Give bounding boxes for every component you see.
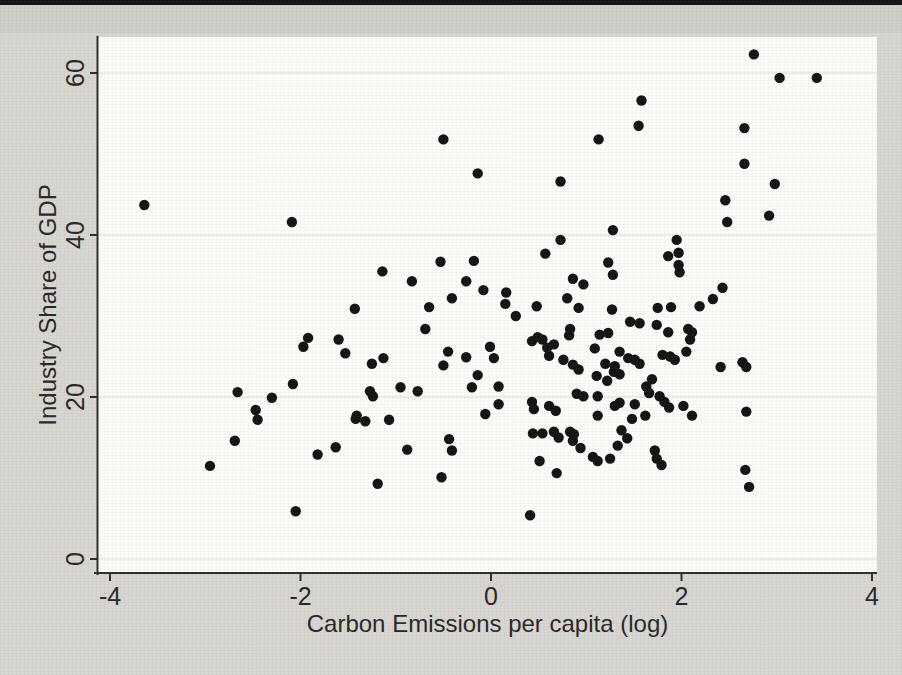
data-point bbox=[644, 388, 654, 398]
data-point bbox=[230, 436, 240, 446]
data-point bbox=[377, 266, 387, 276]
data-point bbox=[367, 359, 377, 369]
data-point bbox=[368, 391, 378, 401]
data-point bbox=[312, 449, 322, 459]
data-point bbox=[607, 304, 617, 314]
data-point bbox=[774, 73, 784, 83]
scatter-figure: Industry Share of GDP Carbon Emissions p… bbox=[0, 0, 902, 675]
data-point bbox=[622, 433, 632, 443]
data-point bbox=[717, 283, 727, 293]
data-point bbox=[636, 95, 646, 105]
data-point bbox=[592, 371, 602, 381]
data-point bbox=[360, 416, 370, 426]
x-tick-label-0: 0 bbox=[484, 584, 498, 609]
data-point bbox=[139, 200, 149, 210]
data-point bbox=[656, 460, 666, 470]
plot-canvas bbox=[0, 0, 902, 675]
data-point bbox=[553, 432, 563, 442]
data-point bbox=[634, 359, 644, 369]
data-point bbox=[489, 353, 499, 363]
data-point bbox=[568, 274, 578, 284]
data-point bbox=[537, 428, 547, 438]
data-point bbox=[594, 329, 604, 339]
data-point bbox=[673, 248, 683, 258]
data-point bbox=[528, 428, 538, 438]
data-point bbox=[722, 217, 732, 227]
data-point bbox=[672, 235, 682, 245]
y-tick-label-20: 20 bbox=[63, 383, 88, 411]
data-point bbox=[485, 342, 495, 352]
data-point bbox=[511, 311, 521, 321]
data-point bbox=[540, 248, 550, 258]
y-tick-label-60: 60 bbox=[63, 59, 88, 87]
data-point bbox=[424, 302, 434, 312]
data-point bbox=[288, 379, 298, 389]
data-point bbox=[534, 456, 544, 466]
data-point bbox=[251, 405, 261, 415]
data-point bbox=[630, 399, 640, 409]
x-axis-title: Carbon Emissions per capita (log) bbox=[307, 612, 669, 636]
data-point bbox=[395, 382, 405, 392]
data-point bbox=[625, 317, 635, 327]
data-point bbox=[552, 468, 562, 478]
plot-area bbox=[98, 37, 877, 573]
data-point bbox=[602, 376, 612, 386]
data-point bbox=[407, 276, 417, 286]
data-point bbox=[544, 351, 554, 361]
data-point bbox=[573, 364, 583, 374]
data-point bbox=[564, 330, 574, 340]
data-point bbox=[555, 176, 565, 186]
data-point bbox=[351, 414, 361, 424]
data-point bbox=[529, 404, 539, 414]
data-point bbox=[478, 285, 488, 295]
data-point bbox=[298, 342, 308, 352]
data-point bbox=[473, 370, 483, 380]
data-point bbox=[232, 387, 242, 397]
data-point bbox=[608, 225, 618, 235]
data-point bbox=[473, 168, 483, 178]
data-point bbox=[267, 393, 277, 403]
data-point bbox=[715, 362, 725, 372]
data-point bbox=[493, 399, 503, 409]
data-point bbox=[708, 294, 718, 304]
data-point bbox=[764, 210, 774, 220]
data-point bbox=[373, 479, 383, 489]
data-point bbox=[614, 369, 624, 379]
data-point bbox=[287, 217, 297, 227]
x-tick-label--2: -2 bbox=[289, 584, 311, 609]
data-point bbox=[681, 346, 691, 356]
data-point bbox=[664, 402, 674, 412]
data-point bbox=[670, 355, 680, 365]
data-point bbox=[741, 406, 751, 416]
data-point bbox=[350, 304, 360, 314]
data-point bbox=[593, 410, 603, 420]
data-point bbox=[435, 257, 445, 267]
data-point bbox=[674, 267, 684, 277]
data-point bbox=[634, 318, 644, 328]
data-point bbox=[444, 434, 454, 444]
data-point bbox=[443, 346, 453, 356]
data-point bbox=[555, 235, 565, 245]
data-point bbox=[663, 327, 673, 337]
y-tick-label-0: 0 bbox=[63, 552, 88, 566]
data-point bbox=[739, 123, 749, 133]
data-point bbox=[568, 436, 578, 446]
data-point bbox=[593, 456, 603, 466]
data-point bbox=[575, 443, 585, 453]
data-point bbox=[633, 121, 643, 131]
data-point bbox=[614, 346, 624, 356]
data-point bbox=[413, 386, 423, 396]
data-point bbox=[687, 410, 697, 420]
data-point bbox=[640, 410, 650, 420]
data-point bbox=[501, 287, 511, 297]
data-point bbox=[739, 159, 749, 169]
data-point bbox=[694, 301, 704, 311]
data-point bbox=[378, 353, 388, 363]
y-tick-label-40: 40 bbox=[63, 221, 88, 249]
data-point bbox=[666, 302, 676, 312]
data-point bbox=[333, 334, 343, 344]
data-point bbox=[770, 179, 780, 189]
data-point bbox=[749, 49, 759, 59]
data-point bbox=[652, 320, 662, 330]
data-point bbox=[720, 195, 730, 205]
